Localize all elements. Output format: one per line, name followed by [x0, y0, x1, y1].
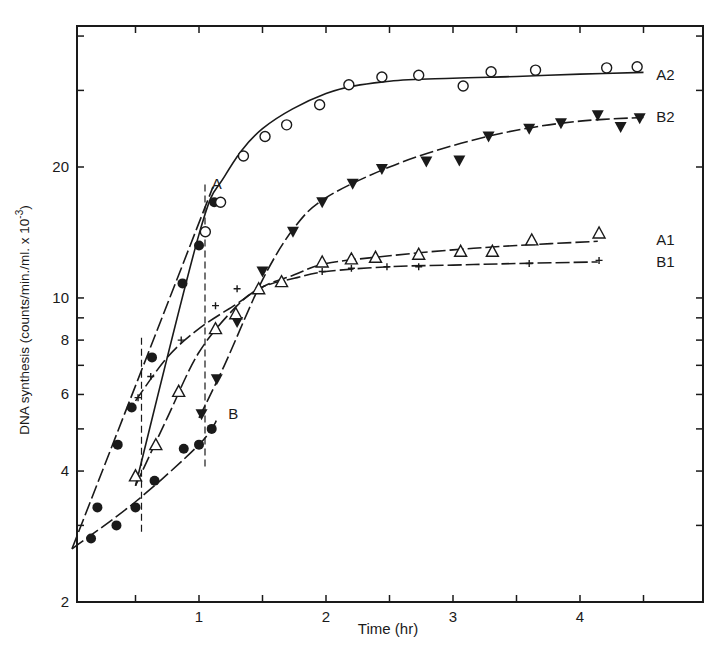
point-b2 [257, 267, 269, 278]
x-tick-label: 1 [195, 608, 203, 625]
point-b2 [453, 156, 465, 167]
x-tick-label: 3 [449, 608, 457, 625]
y-axis-label-close: ) [17, 205, 32, 210]
point-b [131, 502, 141, 512]
point-b2 [211, 374, 223, 385]
point-b [207, 424, 217, 434]
point-b1 [415, 263, 422, 270]
point-a2 [238, 151, 248, 161]
point-a2 [414, 70, 424, 80]
point-a2 [200, 227, 210, 237]
point-b2 [634, 113, 646, 124]
point-a1 [593, 227, 605, 238]
y-axis-label-main: DNA synthesis (counts/min./ml. x 10 [17, 219, 32, 435]
point-b [179, 444, 189, 454]
curve-a2 [136, 72, 644, 485]
point-b1 [212, 302, 219, 309]
x-tick-label: 2 [322, 608, 330, 625]
point-b2 [555, 118, 567, 129]
axis-tick-labels: 123424681020 [52, 158, 584, 625]
point-a1 [253, 283, 265, 294]
point-b1 [319, 268, 326, 275]
point-a2 [632, 62, 642, 72]
point-a1 [173, 385, 185, 396]
point-a [113, 440, 123, 450]
curve-a [72, 187, 213, 549]
point-b2 [196, 409, 208, 420]
y-tick-label: 20 [52, 158, 69, 175]
point-b2 [420, 156, 432, 167]
point-b1 [234, 285, 241, 292]
point-a2 [282, 120, 292, 130]
point-a1 [455, 245, 467, 256]
point-a2 [315, 100, 325, 110]
series-points [86, 62, 646, 544]
x-tick-label: 4 [576, 608, 584, 625]
point-b2 [347, 179, 359, 190]
point-a2 [260, 132, 270, 142]
point-b1 [178, 337, 185, 344]
y-tick-label: 10 [52, 289, 69, 306]
point-a2 [486, 67, 496, 77]
point-a [194, 240, 204, 250]
point-b1 [348, 265, 355, 272]
point-b [194, 440, 204, 450]
series-label-b2: B2 [656, 108, 674, 125]
series-label-b1: B1 [656, 253, 674, 270]
y-tick-label: 4 [61, 462, 69, 479]
point-a1 [150, 439, 162, 450]
series-label-b: B [228, 405, 238, 422]
point-a1 [316, 256, 328, 267]
plot-frame [77, 26, 703, 602]
point-b2 [615, 122, 627, 133]
point-b1 [383, 263, 390, 270]
point-b [86, 533, 96, 543]
y-axis-label: DNA synthesis (counts/min./ml. x 10-3) [14, 205, 32, 434]
point-a [177, 278, 187, 288]
point-a1 [345, 253, 357, 264]
point-b1 [596, 257, 603, 264]
point-a [147, 352, 157, 362]
dna-synthesis-chart: 123424681020 ABA2B2A1B1 Time (hr) DNA sy… [0, 0, 728, 667]
point-b1 [526, 260, 533, 267]
y-tick-label: 8 [61, 331, 69, 348]
point-a2 [344, 80, 354, 90]
point-b [111, 520, 121, 530]
curve-b [72, 418, 218, 549]
axis-ticks [77, 26, 703, 602]
series-label-a1: A1 [656, 231, 674, 248]
y-tick-label: 2 [61, 593, 69, 610]
point-a2 [377, 72, 387, 82]
point-a1 [230, 308, 242, 319]
y-tick-label: 6 [61, 385, 69, 402]
plot-border [77, 26, 703, 602]
point-a2 [458, 81, 468, 91]
point-a2 [602, 63, 612, 73]
point-b [150, 476, 160, 486]
point-a [127, 402, 137, 412]
series-label-a: A [212, 175, 222, 192]
series-label-a2: A2 [656, 66, 674, 83]
point-a [92, 502, 102, 512]
point-a2 [216, 197, 226, 207]
x-axis-label: Time (hr) [358, 620, 418, 637]
point-b2 [376, 164, 388, 175]
point-b1 [147, 373, 154, 380]
point-a2 [531, 65, 541, 75]
point-a1 [526, 234, 538, 245]
